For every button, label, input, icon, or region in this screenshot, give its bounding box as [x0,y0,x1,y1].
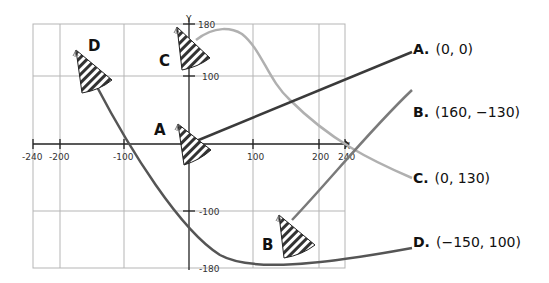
svg-text:-100: -100 [199,207,220,217]
answer-letter: C. [413,170,429,186]
svg-text:-200: -200 [49,152,70,162]
answer-b: B.(160, −130) [413,104,520,120]
answer-letter: B. [413,104,429,120]
match-line-b [292,90,412,220]
answer-coords: (0, 0) [435,41,473,57]
svg-text:-240: -240 [22,152,43,162]
point-label-a: A [154,121,166,139]
match-line-a [189,52,412,144]
svg-text:-180: -180 [199,264,220,274]
answer-coords: (160, −130) [435,104,520,120]
party-hat-icon-b [276,215,315,258]
y-axis-label: Y [185,14,192,24]
svg-text:-100: -100 [113,152,134,162]
answer-c: C.(0, 130) [413,170,490,186]
match-line-c [196,29,412,178]
svg-text:100: 100 [202,72,219,82]
point-label-d: D [88,37,100,55]
answer-letter: D. [413,234,430,250]
match-line-d [96,85,412,265]
answer-letter: A. [413,41,429,57]
svg-text:200: 200 [312,152,329,162]
svg-text:100: 100 [247,152,264,162]
answer-coords: (−150, 100) [436,234,521,250]
point-label-b: B [262,236,273,254]
point-label-c: C [159,52,170,70]
answer-coords: (0, 130) [435,170,490,186]
answer-d: D.(−150, 100) [413,234,521,250]
party-hat-icon-d [73,50,112,93]
answer-a: A.(0, 0) [413,41,473,57]
svg-text:180: 180 [198,20,215,30]
